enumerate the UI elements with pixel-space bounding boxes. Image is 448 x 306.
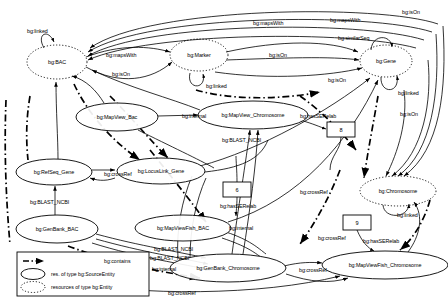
edge-label-crossref-genes: bg:crossRef [104, 172, 132, 177]
node-label-mapview-chromosome[interactable]: bg:MapView_Chromosome [222, 112, 285, 118]
edge-label-ison-marker-bac: bg:isOn [112, 72, 130, 77]
edge-label-mapswith-top: bg:mapsWith [330, 18, 360, 23]
legend-contains-label: bg:contains [104, 258, 131, 264]
edge-label-blast-ncbi-left: bg:BLAST_NCBI [30, 200, 69, 205]
node-label-mapview-bac[interactable]: bg:MapView_Bac [97, 114, 137, 120]
edge-label-blast-ncbi-a: bg:BLAST_NCBI [154, 247, 193, 252]
edge-label-ison-marker-gene: bg:isOn [269, 53, 287, 58]
edge-label-linked-gene: bg:linked [398, 91, 419, 96]
edge-label-ison-gene-chr: bg:isOn [400, 112, 418, 117]
edge-label-crossref-mid-right: bg:crossRef [318, 236, 346, 241]
graph-svg [0, 0, 448, 306]
node-label-genbank-bac[interactable]: bg:GenBank_BAC [36, 226, 79, 232]
edge-label-hasserelab-8: bg:hasSERelab [300, 114, 336, 119]
edge-label-crossref-bottom: bg:crossRef [168, 291, 196, 296]
node-label-mapviewfish-chromosome[interactable]: bg:MapViewFish_Chromosome [349, 262, 422, 268]
node-label-bac[interactable]: bg:BAC [48, 59, 66, 65]
edge-label-ison-top-right: bg:isOn [402, 10, 420, 15]
edge-label-blast-ncbi-mid: bg:BLAST_NCBI [222, 138, 261, 143]
node-label-genbank-chromosome[interactable]: bg:GenBank_Chromosome [196, 265, 259, 271]
edge-label-hasserelab-9: bg:hasSERelab [363, 239, 399, 244]
edge-label-internal-bottom: bg:internal [152, 267, 176, 272]
edge-label-mapswith-bac-marker: bg:mapsWith [106, 53, 136, 58]
node-label-mapviewfish-bac[interactable]: bg:MapViewFish_BAC [157, 225, 209, 231]
box-node-9[interactable]: 9 [355, 220, 358, 226]
diagram-canvas: bg:BAC bg:Marker bg:Gene bg:Chromosome b… [0, 0, 448, 306]
node-label-marker[interactable]: bg:Marker [187, 52, 210, 58]
node-label-locuslink-gene[interactable]: bg:LocusLink_Gene [138, 168, 184, 174]
node-label-refseq-gene[interactable]: bg:RefSeq_Gene [34, 169, 74, 175]
node-label-chromosome[interactable]: bg:Chromosome [379, 188, 418, 194]
box-node-8[interactable]: 8 [339, 127, 342, 133]
edge-label-ison-mid: bg:isOn [328, 78, 346, 83]
edge-label-linked-marker: bg:linked [206, 84, 227, 89]
box-node-6[interactable]: 6 [235, 187, 238, 193]
edge-label-mapswith-upper: bg:mapsWith [253, 21, 283, 26]
edge-label-linked-chromosome: bg:linked [397, 213, 418, 218]
edge-label-crossref-bottom-r: bg:crossRef [299, 268, 327, 273]
edge-label-internal-right: bg:internal [229, 226, 253, 231]
legend-entity-label: resources of type bg:Entity [51, 284, 112, 290]
edge-label-blast-ncbi-b: bg:BLAST_NCBI [150, 256, 189, 261]
edge-label-similarseq: bg:similarSeq [338, 36, 369, 41]
edges-solid [41, 12, 444, 292]
legend-source-entity-label: res. of type bg:SourceEntity [51, 271, 115, 277]
edge-label-hasserelab-6: bg:hasSERelab [220, 204, 256, 209]
edge-label-internal-mapview: bg:internal [182, 114, 206, 119]
edge-label-linked-bac: bg:linked [27, 29, 48, 34]
edge-label-crossref-right: bg:crossRef [300, 190, 328, 195]
node-label-gene[interactable]: bg:Gene [376, 58, 396, 64]
